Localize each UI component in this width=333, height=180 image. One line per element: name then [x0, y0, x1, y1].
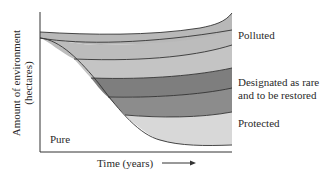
x-axis-label: Time (years) — [97, 157, 153, 169]
label-designated-line2: and to be restored — [238, 89, 317, 101]
label-polluted: Polluted — [238, 29, 275, 41]
label-designated-line1: Designated as rare — [238, 76, 319, 88]
time-arrow-head — [190, 161, 196, 166]
label-pure: Pure — [50, 133, 70, 145]
label-protected: Protected — [238, 117, 280, 129]
